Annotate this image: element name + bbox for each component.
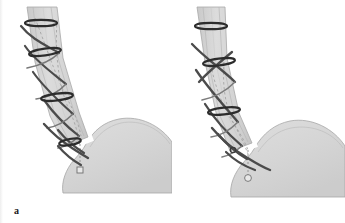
panel-label-a: a [14, 206, 19, 216]
anchor-circle-b [245, 175, 252, 182]
anchor-square-a [77, 167, 83, 173]
panel-a-illustration [0, 0, 172, 223]
panel-a: a [0, 0, 172, 223]
figure-container: a [0, 0, 345, 223]
panel-b-illustration [172, 0, 345, 223]
panel-b: b [172, 0, 345, 223]
